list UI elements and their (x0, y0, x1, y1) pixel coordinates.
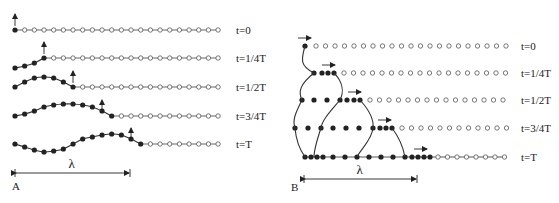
wave-propagation-diagram: t=0t=1/4Tt=1/2Tt=3/4Tt=TλA t=0t=1/4Tt=1/… (0, 0, 559, 203)
particle-trajectory (314, 73, 342, 157)
time-label: t=T (521, 151, 537, 163)
panel-a-row: t=1/2T (12, 71, 266, 93)
panel-a-row: t=T (12, 128, 252, 155)
time-label: t=0 (236, 24, 251, 36)
time-label: t=1/2T (521, 94, 551, 106)
time-label: t=1/2T (236, 81, 266, 93)
time-label: t=0 (521, 40, 536, 52)
panel-b-row: t=1/4T (311, 65, 551, 79)
wavelength-label: λ (357, 162, 364, 177)
time-label: t=1/4T (236, 52, 266, 64)
wavelength-label: λ (69, 156, 76, 171)
panel-b-row: t=T (302, 149, 537, 163)
panel-label-b: B (291, 181, 298, 193)
panel-a-row: t=1/4T (12, 42, 266, 71)
time-label: t=3/4T (236, 110, 266, 122)
panel-a-row: t=0 (12, 14, 251, 36)
time-label: t=1/4T (521, 67, 551, 79)
panel-b-row: t=3/4T (292, 120, 551, 134)
particle-trajectory (392, 128, 405, 157)
panel-b-row: t=0 (298, 38, 536, 52)
panel-a-transverse-wave: t=0t=1/4Tt=1/2Tt=3/4Tt=TλA (12, 14, 266, 192)
time-label: t=3/4T (521, 122, 551, 134)
panel-a-row: t=3/4T (12, 100, 266, 122)
panel-b-longitudinal-wave: t=0t=1/4Tt=1/2Tt=3/4Tt=TλB (291, 38, 551, 193)
panel-label-a: A (12, 180, 20, 192)
time-label: t=T (236, 138, 252, 150)
